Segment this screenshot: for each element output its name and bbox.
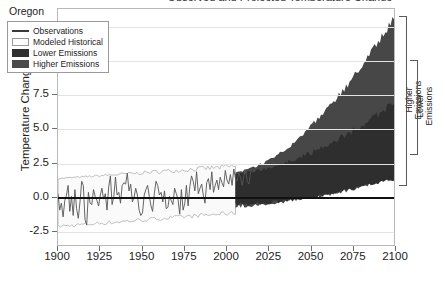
- chart-legend: Observations Modeled Historical Lower Em…: [7, 21, 109, 73]
- x-tick-label: 2050: [288, 250, 334, 262]
- region-label: Oregon: [9, 5, 44, 17]
- legend-label: Observations: [33, 26, 83, 36]
- gridline: [58, 129, 394, 130]
- chart-figure: Observed and Projected Temperature Chang…: [0, 0, 445, 282]
- gridline: [58, 232, 394, 233]
- legend-item-higher-emissions: Higher Emissions: [12, 58, 103, 69]
- legend-swatch-band-icon: [12, 38, 29, 46]
- lower-emissions-bracket-label: Lower Emissions: [416, 78, 434, 134]
- chart-title: Observed and Projected Temperature Chang…: [150, 0, 410, 1]
- x-tick-mark: [268, 246, 269, 251]
- legend-item-modeled-historical: Modeled Historical: [12, 36, 103, 47]
- y-tick-label: -2.5: [3, 224, 49, 236]
- x-tick-mark: [99, 246, 100, 251]
- x-tick-mark: [142, 246, 143, 251]
- x-tick-label: 1975: [161, 250, 207, 262]
- x-tick-mark: [226, 246, 227, 251]
- legend-item-lower-emissions: Lower Emissions: [12, 47, 103, 58]
- x-tick-label: 2075: [330, 250, 376, 262]
- zero-reference-line: [58, 197, 394, 199]
- x-tick-label: 1900: [34, 250, 80, 262]
- x-tick-mark: [184, 246, 185, 251]
- legend-label: Lower Emissions: [33, 48, 97, 58]
- x-tick-label: 2100: [372, 250, 418, 262]
- x-tick-mark: [353, 246, 354, 251]
- legend-swatch-line-icon: [12, 27, 29, 35]
- legend-label: Modeled Historical: [33, 37, 103, 47]
- x-tick-label: 2000: [203, 250, 249, 262]
- legend-item-observations: Observations: [12, 25, 103, 36]
- legend-swatch-band-icon: [12, 60, 29, 68]
- x-tick-label: 2025: [245, 250, 291, 262]
- gridline: [58, 95, 394, 96]
- x-tick-mark: [57, 246, 58, 251]
- x-tick-mark: [395, 246, 396, 251]
- y-tick-label: 0.0: [3, 190, 49, 202]
- y-tick-label: 2.5: [3, 156, 49, 168]
- legend-swatch-band-icon: [12, 49, 29, 57]
- gridline: [58, 164, 394, 165]
- y-tick-label: 7.5: [3, 87, 49, 99]
- x-tick-label: 1950: [119, 250, 165, 262]
- y-tick-label: 5.0: [3, 121, 49, 133]
- legend-label: Higher Emissions: [33, 59, 99, 69]
- x-tick-mark: [311, 246, 312, 251]
- x-tick-label: 1925: [76, 250, 122, 262]
